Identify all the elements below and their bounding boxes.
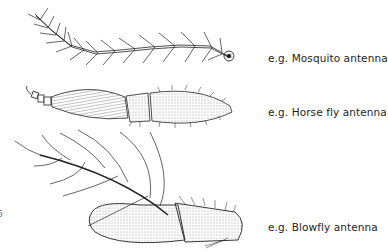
clipped-figure-number: 6 (0, 209, 3, 219)
mosquito-antenna-drawing (28, 8, 234, 65)
mosquito-antenna-label: e.g. Mosquito antenna (268, 52, 388, 64)
horse-fly-antenna-label: e.g. Horse fly antenna (268, 106, 387, 118)
blowfly-antenna-label: e.g. Blowfly antenna (268, 221, 378, 233)
horse-fly-antenna-drawing (27, 85, 233, 128)
blowfly-antenna-drawing (15, 130, 242, 248)
